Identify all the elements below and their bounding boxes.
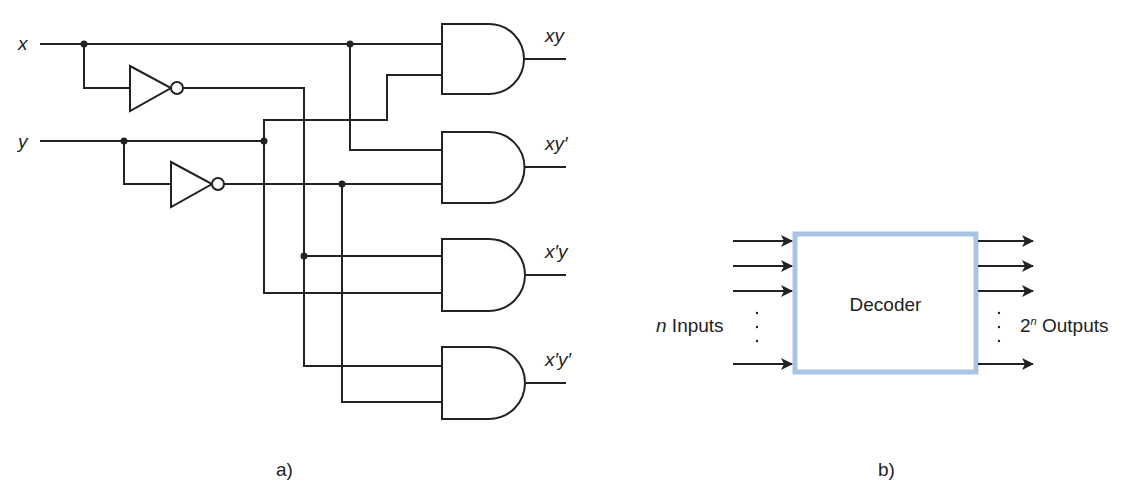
caption-b: b) bbox=[878, 459, 895, 480]
outputs-label: 2n Outputs bbox=[1020, 315, 1109, 336]
input-label-x: x bbox=[17, 33, 29, 54]
diagram-canvas: x y bbox=[0, 0, 1138, 497]
output-label-xy: xy bbox=[544, 25, 566, 46]
wire-x-branch bbox=[84, 44, 130, 88]
wire-y-branch bbox=[124, 141, 171, 184]
output-ellipsis bbox=[998, 312, 1000, 342]
output-label-x-prime-y: x′y bbox=[544, 241, 569, 262]
inverter-y bbox=[171, 162, 224, 207]
output-arrows bbox=[978, 241, 1033, 364]
caption-a: a) bbox=[276, 459, 293, 480]
panel-a-circuit: x y bbox=[16, 24, 573, 480]
inputs-label: n Inputs bbox=[656, 315, 724, 336]
wire-x-to-gate2 bbox=[350, 44, 442, 150]
output-label-x-prime-y-prime: x′y′ bbox=[544, 349, 573, 370]
wire-y-to-gate3 bbox=[264, 141, 442, 293]
decoder-label: Decoder bbox=[850, 294, 922, 315]
inverter-x bbox=[130, 66, 183, 111]
wire-x-not bbox=[183, 88, 442, 366]
input-label-y: y bbox=[16, 131, 29, 152]
panel-b-decoder: Decoder n Inputs 2n Outputs b) bbox=[656, 234, 1109, 480]
output-label-xy-prime: xy′ bbox=[544, 133, 569, 154]
wire-y-to-gate1 bbox=[264, 75, 442, 141]
input-arrows bbox=[733, 241, 792, 364]
input-ellipsis bbox=[756, 312, 758, 342]
